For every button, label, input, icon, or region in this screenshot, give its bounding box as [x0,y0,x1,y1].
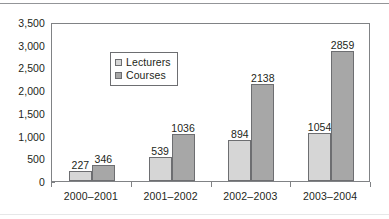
y-axis-tick-label: 2,500 [0,63,45,73]
bar-courses-2002–2003 [251,84,274,181]
bar-value-label: 1036 [166,123,201,134]
y-axis-tick-label: 3,000 [0,41,45,51]
bar-lecturers-2000–2001 [69,171,92,181]
y-axis-tick-label: 1,500 [0,109,45,119]
bar-lecturers-2002–2003 [228,140,251,181]
figure: 05001,0001,5002,0002,5003,0003,500 22734… [0,0,389,219]
bar-value-label: 2138 [245,73,280,84]
y-axis-tick-label: 3,500 [0,18,45,28]
y-axis-tick-labels: 05001,0001,5002,0002,5003,0003,500 [0,23,45,182]
bar-lecturers-2003–2004 [308,133,331,181]
top-divider-rule [0,3,389,4]
bar-value-label: 346 [86,154,121,165]
chart-legend: LecturersCourses [110,52,178,86]
legend-swatch-icon [115,59,122,66]
x-axis-tick-label: 2001–2002 [131,190,211,202]
legend-item-lecturers: Lecturers [115,56,171,69]
plot-frame: 2273465391036894213810542859 LecturersCo… [51,23,370,182]
y-axis-tick-label: 1,000 [0,132,45,142]
x-axis-tick-mark [370,182,371,187]
bar-courses-2000–2001 [92,165,115,181]
legend-label: Lecturers [126,57,171,68]
plot-area: 2273465391036894213810542859 [52,24,369,181]
y-axis-tick-label: 500 [0,154,45,164]
x-axis-tick-mark [290,182,291,187]
x-axis-tick-mark [51,182,52,187]
legend-label: Courses [126,70,166,81]
bar-courses-2003–2004 [331,51,354,181]
x-axis-tick-label: 2002–2003 [211,190,291,202]
bar-lecturers-2001–2002 [149,157,172,181]
x-axis-tick-labels: 2000–20012001–20022002–20032003–2004 [51,190,370,206]
bar-value-label: 2859 [325,40,360,51]
legend-item-courses: Courses [115,69,171,82]
y-axis-tick-label: 0 [0,177,45,187]
x-axis-tick-mark [131,182,132,187]
x-axis-tick-label: 2000–2001 [51,190,131,202]
bottom-divider-rule [0,214,389,215]
x-axis-tick-label: 2003–2004 [290,190,370,202]
x-axis-tick-mark [211,182,212,187]
y-axis-tick-label: 2,000 [0,86,45,96]
bar-courses-2001–2002 [172,134,195,181]
legend-swatch-icon [115,72,122,79]
